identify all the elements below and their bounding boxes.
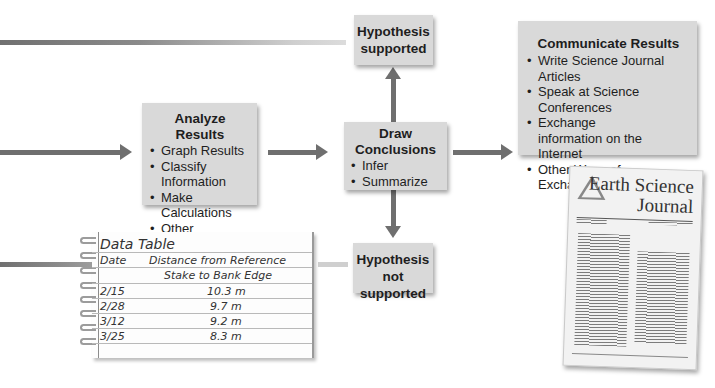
communicate-item: Exchange information on the Internet (526, 115, 663, 162)
notebook-rule (92, 283, 312, 284)
data-table-header-distance: Distance from Reference (149, 254, 286, 267)
journal-contents-column-left (574, 233, 630, 347)
analyze-item: Graph Results (149, 143, 251, 159)
communicate-results-title: Communicate Results (526, 36, 691, 52)
spiral-ring-icon (80, 237, 96, 244)
input-arrow-shaft (0, 150, 122, 155)
communicate-item: Write Science Journal Articles (526, 53, 691, 84)
communicate-item: Speak at Science Conferences (526, 84, 691, 115)
journal-title-line2: Journal (637, 195, 694, 217)
conclusions-to-not-supported-arrow-icon (385, 226, 401, 238)
analyze-item: Classify Information (149, 159, 251, 190)
notebook-rule (92, 252, 312, 253)
notebook-rule (92, 267, 312, 268)
analyze-item: Make Calculations (149, 190, 251, 221)
bottom-return-line-right (318, 262, 348, 267)
journal-masthead-text (577, 219, 607, 225)
data-table-date: 2/15 (100, 285, 125, 298)
data-table-date: 3/25 (100, 330, 125, 343)
data-table-header-distance-2: Stake to Bank Edge (164, 269, 272, 282)
journal-footer-rule (572, 353, 688, 358)
data-table-distance: 8.3 m (210, 330, 242, 343)
spiral-ring-icon (80, 252, 96, 259)
analyze-to-conclusions-arrow-icon (316, 144, 328, 160)
data-table-distance: 9.2 m (210, 315, 242, 328)
notebook-rule (92, 298, 312, 299)
hypothesis-not-supported-line2: not supported (353, 268, 433, 302)
conclusions-to-supported-arrow-icon (385, 67, 401, 79)
notebook-rule (92, 328, 312, 329)
hypothesis-supported-line1: Hypothesis (354, 23, 433, 40)
data-table-title: Data Table (100, 236, 175, 252)
hypothesis-supported-line2: supported (354, 40, 433, 57)
hypothesis-supported-box: Hypothesis supported (354, 15, 433, 65)
draw-conclusions-title-2: Conclusions (350, 142, 441, 158)
notebook-rule (92, 313, 312, 314)
earth-science-journal-image: Earth Science Journal (563, 166, 704, 371)
analyze-to-conclusions-shaft (268, 150, 318, 155)
draw-conclusions-title-1: Draw (350, 126, 441, 142)
hypothesis-not-supported-box: Hypothesis not supported (353, 243, 433, 293)
conclusions-to-supported-shaft (391, 78, 396, 124)
data-table-header-date: Date (100, 254, 126, 267)
notebook-margin-line (98, 232, 99, 358)
data-table-date: 2/28 (100, 300, 125, 313)
analyze-item-text: Classify Information (161, 159, 226, 190)
analyze-results-title: Analyze Results (149, 111, 251, 143)
data-table-date: 3/12 (100, 315, 125, 328)
conclusions-to-communicate-arrow-icon (501, 144, 513, 160)
data-table-distance: 10.3 m (207, 285, 246, 298)
draw-conclusions-box: Draw Conclusions Infer Summarize (344, 122, 447, 190)
input-arrow-head-icon (120, 144, 132, 160)
conclusions-to-not-supported-shaft (391, 190, 396, 228)
journal-masthead-text (649, 222, 693, 227)
hypothesis-not-supported-line1: Hypothesis (353, 251, 433, 268)
data-table-distance: 9.7 m (210, 300, 242, 313)
conclusions-to-communicate-shaft (453, 150, 503, 155)
data-table-notebook: Data Table Date Distance from Reference … (92, 232, 314, 358)
journal-contents-column-right (634, 251, 689, 345)
spiral-ring-icon (80, 267, 96, 274)
analyze-results-box: Analyze Results Graph Results Classify I… (142, 103, 257, 205)
communicate-results-box: Communicate Results Write Science Journa… (518, 21, 697, 155)
top-return-line (0, 40, 346, 45)
notebook-rule (92, 343, 312, 344)
conclusions-item: Summarize (350, 174, 441, 190)
conclusions-item: Infer (350, 158, 441, 174)
